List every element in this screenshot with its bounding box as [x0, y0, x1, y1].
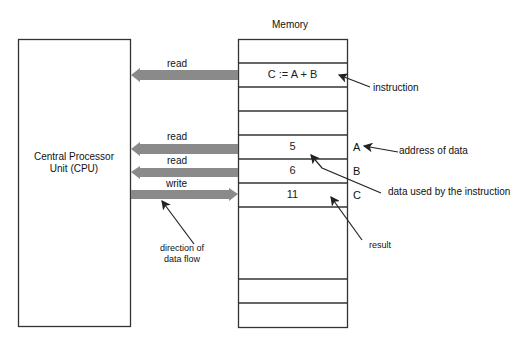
memory-cell-c: 11 — [238, 188, 347, 200]
cpu-box — [19, 40, 131, 327]
direction-line2: data flow — [150, 254, 214, 265]
direction-annotation: direction of data flow — [150, 243, 214, 265]
instruction-annotation: instruction — [373, 82, 419, 94]
memory-box — [238, 40, 348, 328]
result-annotation: result — [369, 239, 391, 251]
arrow-label-write: write — [166, 178, 187, 190]
arrow-label-read-3: read — [167, 155, 187, 167]
address-pointer — [364, 146, 398, 152]
address-label-c: C — [353, 189, 361, 201]
memory-cell-a: 5 — [238, 140, 347, 152]
cpu-label-line1: Central Processor — [18, 151, 130, 163]
memory-cell-instruction: C := A + B — [238, 68, 347, 80]
data-used-annotation: data used by the instruction — [388, 186, 510, 198]
memory-title: Memory — [272, 19, 308, 31]
cpu-label-line2: Unit (CPU) — [18, 163, 130, 175]
cpu-label: Central Processor Unit (CPU) — [18, 151, 130, 175]
address-label-a: A — [353, 141, 360, 153]
arrow-label-read-1: read — [167, 58, 187, 70]
read-arrow-a — [131, 142, 238, 156]
direction-line1: direction of — [150, 243, 214, 254]
direction-pointer — [162, 201, 194, 244]
address-label-b: B — [353, 165, 360, 177]
address-annotation: address of data — [399, 145, 468, 157]
read-arrow-instruction — [131, 68, 238, 82]
arrow-label-read-2: read — [167, 131, 187, 143]
memory-cell-b: 6 — [238, 164, 347, 176]
